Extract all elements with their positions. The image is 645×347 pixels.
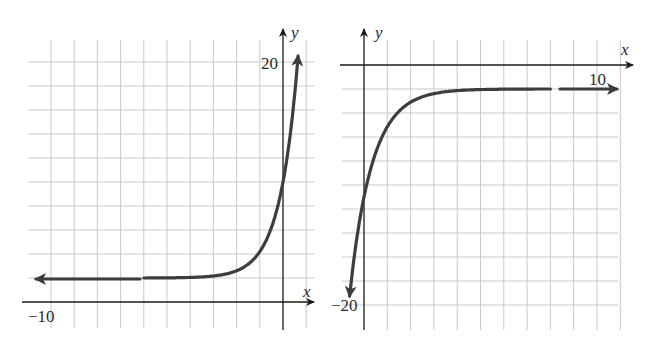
- figure: x y −10 20 x y 10 −20: [0, 0, 645, 347]
- right-graph: x y 10 −20: [331, 23, 633, 330]
- right-tick-x: 10: [589, 70, 606, 89]
- left-tick-y: 20: [261, 54, 278, 73]
- right-grid: [342, 40, 620, 330]
- right-curve-head-down: [350, 262, 354, 296]
- left-x-label: x: [302, 282, 311, 301]
- left-graph: x y −10 20: [22, 23, 314, 330]
- left-y-label: y: [289, 23, 299, 42]
- left-tick-x: −10: [28, 307, 55, 326]
- right-x-label: x: [620, 40, 629, 59]
- right-y-label: y: [373, 23, 383, 42]
- right-curve: [354, 89, 551, 262]
- right-tick-y: −20: [331, 296, 358, 315]
- left-grid: [28, 40, 314, 328]
